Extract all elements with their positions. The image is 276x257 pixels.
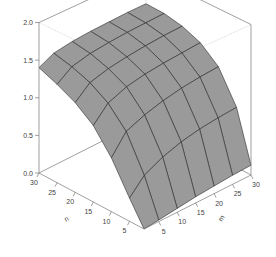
m-tick	[177, 212, 179, 216]
m-tick-label: 10	[178, 218, 186, 225]
z-tick-label: 2.0	[23, 19, 33, 26]
m-tick-label: 5	[162, 228, 166, 235]
n-tick	[55, 183, 57, 187]
n-tick-label: 30	[30, 179, 38, 186]
surface-plot: 0.00.51.01.52.0 51015202530 51015202530 …	[0, 0, 276, 257]
n-tick	[37, 173, 39, 177]
m-tick-label: 20	[215, 200, 223, 207]
z-tick-label: 1.5	[23, 57, 33, 64]
z-tick-label: 0.5	[23, 132, 33, 139]
n-tick	[109, 212, 111, 216]
n-axis-label: n	[63, 215, 70, 223]
n-tick-label: 20	[66, 198, 74, 205]
n-axis: 51015202530	[30, 173, 129, 234]
z-axis: 0.00.51.01.52.0	[23, 19, 39, 176]
z-tick-label: 0.0	[23, 170, 33, 177]
m-tick	[196, 203, 198, 207]
m-tick	[251, 175, 253, 179]
n-tick	[73, 192, 75, 196]
m-tick-label: 30	[252, 181, 260, 188]
n-tick-label: 25	[48, 189, 56, 196]
n-tick-label: 5	[123, 227, 127, 234]
n-tick-label: 15	[84, 208, 92, 215]
n-tick	[91, 202, 93, 206]
m-axis-label: m	[217, 214, 226, 223]
n-tick	[128, 221, 130, 225]
m-tick-label: 15	[197, 209, 205, 216]
z-tick-label: 1.0	[23, 94, 33, 101]
m-tick	[214, 194, 216, 198]
m-tick	[159, 222, 161, 226]
surface-mesh	[39, 4, 251, 229]
m-tick	[233, 184, 235, 188]
n-tick-label: 10	[103, 218, 111, 225]
m-tick-label: 25	[234, 190, 242, 197]
